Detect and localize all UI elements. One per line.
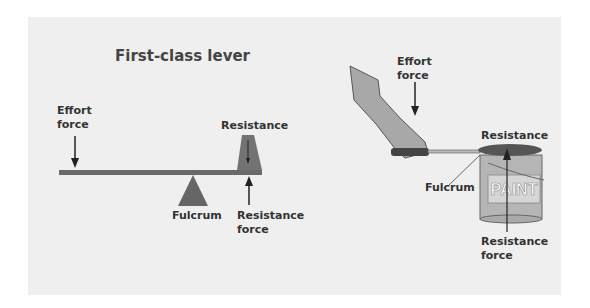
fulcrum-label-right: Fulcrum bbox=[425, 181, 475, 195]
effort-label-right: Effortforce bbox=[397, 55, 432, 83]
fulcrum-triangle-icon bbox=[178, 175, 208, 206]
fulcrum-label-left: Fulcrum bbox=[172, 209, 222, 223]
lever-bar bbox=[59, 170, 262, 175]
resistance-force-label-left: Resistanceforce bbox=[237, 209, 304, 237]
effort-label-left: Effortforce bbox=[57, 104, 92, 132]
resistance-weight-icon bbox=[237, 135, 262, 170]
diagram-title: First-class lever bbox=[115, 47, 250, 65]
can-label: PAINT bbox=[491, 181, 538, 198]
paint-can-lever: PAINT bbox=[350, 66, 544, 232]
first-class-lever bbox=[59, 135, 262, 206]
screwdriver-handle bbox=[391, 148, 429, 156]
resistance-label-right: Resistance bbox=[481, 129, 548, 143]
resistance-label-left: Resistance bbox=[221, 119, 288, 133]
resistance-force-label-right: Resistanceforce bbox=[481, 235, 548, 263]
